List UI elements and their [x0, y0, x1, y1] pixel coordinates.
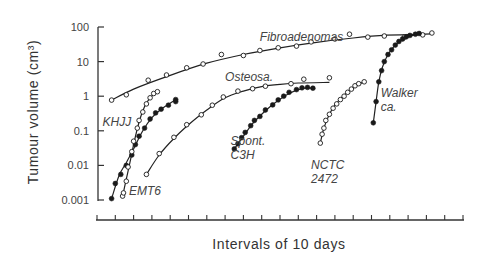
filled-circle-marker: [159, 107, 164, 112]
filled-circle-marker: [311, 86, 316, 91]
series-emt6: EMT6: [120, 89, 161, 198]
open-circle-marker: [327, 76, 332, 81]
y-axis: 1001010.10.010.001: [61, 21, 104, 206]
filled-circle-marker: [142, 126, 147, 131]
open-circle-marker: [184, 66, 189, 71]
open-circle-marker: [221, 95, 226, 100]
open-circle-marker: [294, 44, 299, 49]
filled-circle-marker: [137, 134, 142, 139]
filled-circle-marker: [382, 59, 387, 64]
open-circle-marker: [155, 89, 160, 94]
series-label-walker-ca: Walkerca.: [381, 86, 419, 114]
open-circle-marker: [276, 46, 281, 51]
filled-circle-marker: [374, 99, 379, 104]
x-axis: [96, 215, 464, 220]
series-label-emt6: EMT6: [129, 184, 161, 198]
filled-circle-marker: [258, 114, 263, 119]
y-tick-label: 0.001: [61, 194, 89, 206]
open-circle-marker: [241, 53, 246, 58]
filled-circle-marker: [386, 52, 391, 57]
open-circle-marker: [331, 106, 336, 111]
open-circle-marker: [135, 126, 140, 131]
filled-circle-marker: [408, 33, 413, 38]
tumour-growth-chart: 1001010.10.010.001 FibroadenomasOsteosa.…: [0, 0, 490, 271]
series-label-spont-c3h: Spont.C3H: [231, 134, 266, 162]
y-tick-label: 1: [83, 90, 89, 102]
open-circle-marker: [258, 48, 263, 53]
filled-circle-marker: [376, 79, 381, 84]
open-circle-marker: [320, 132, 325, 137]
filled-circle-marker: [270, 103, 275, 108]
y-tick-label: 100: [71, 21, 89, 33]
open-circle-marker: [146, 78, 151, 83]
filled-circle-marker: [153, 111, 158, 116]
filled-circle-marker: [393, 43, 398, 48]
open-circle-marker: [382, 34, 387, 39]
y-tick-label: 0.1: [74, 125, 89, 137]
open-circle-marker: [157, 151, 162, 156]
open-circle-marker: [131, 139, 136, 144]
open-circle-marker: [318, 141, 323, 146]
open-circle-marker: [289, 81, 294, 86]
filled-circle-marker: [109, 196, 114, 201]
filled-circle-marker: [276, 98, 281, 103]
open-circle-marker: [338, 97, 343, 102]
y-tick-label: 10: [77, 56, 89, 68]
filled-circle-marker: [371, 120, 376, 125]
open-circle-marker: [250, 86, 255, 91]
open-circle-marker: [342, 94, 347, 99]
open-circle-marker: [199, 113, 204, 118]
open-circle-marker: [201, 62, 206, 67]
filled-circle-marker: [281, 94, 286, 99]
y-axis-title: Tumour volume (cm³): [25, 40, 41, 185]
y-tick-label: 0.01: [68, 159, 89, 171]
open-circle-marker: [430, 31, 435, 36]
filled-circle-marker: [118, 172, 123, 177]
filled-circle-marker: [263, 108, 268, 113]
series-label-khjj: KHJJ: [102, 115, 132, 129]
filled-circle-marker: [166, 103, 171, 108]
filled-circle-marker: [173, 97, 178, 102]
filled-circle-marker: [300, 85, 305, 90]
open-circle-marker: [124, 179, 129, 184]
open-circle-marker: [362, 80, 367, 85]
open-circle-marker: [130, 149, 135, 154]
filled-circle-marker: [113, 181, 118, 186]
open-circle-marker: [144, 102, 149, 107]
filled-circle-marker: [248, 123, 253, 128]
series-label-nctc-2472: NCTC2472: [310, 158, 345, 186]
open-circle-marker: [109, 98, 114, 103]
open-circle-marker: [324, 118, 329, 123]
open-circle-marker: [148, 96, 153, 101]
open-circle-marker: [164, 73, 169, 78]
open-circle-marker: [144, 172, 149, 177]
series-curve: [320, 82, 364, 143]
open-circle-marker: [172, 135, 177, 140]
open-circle-marker: [327, 112, 332, 117]
filled-circle-marker: [379, 68, 384, 73]
filled-circle-marker: [389, 47, 394, 52]
open-circle-marker: [124, 93, 129, 98]
series-walker-ca: Walkerca.: [371, 31, 422, 125]
series-nctc-2472: NCTC2472: [310, 80, 366, 186]
open-circle-marker: [236, 89, 241, 94]
series-spont-c3h: Spont.C3H: [231, 85, 316, 162]
open-circle-marker: [126, 165, 131, 170]
series-layer: FibroadenomasOsteosa.KHJJEMT6Spont.C3HNC…: [102, 30, 434, 201]
open-circle-marker: [219, 52, 224, 57]
series-label-osteosa: Osteosa.: [225, 70, 273, 84]
open-circle-marker: [184, 122, 189, 127]
open-circle-marker: [141, 110, 146, 115]
open-circle-marker: [322, 126, 327, 131]
open-circle-marker: [137, 118, 142, 123]
open-circle-marker: [263, 84, 268, 89]
filled-circle-marker: [417, 31, 422, 36]
filled-circle-marker: [305, 85, 310, 90]
open-circle-marker: [210, 103, 215, 108]
open-circle-marker: [302, 77, 307, 82]
filled-circle-marker: [294, 87, 299, 92]
filled-circle-marker: [287, 90, 292, 95]
open-circle-marker: [121, 191, 126, 196]
filled-circle-marker: [252, 118, 257, 123]
open-circle-marker: [334, 102, 339, 107]
